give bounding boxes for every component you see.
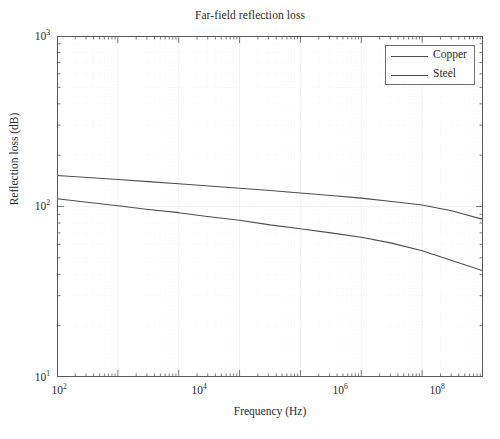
y-tick-label-100: 102 (12, 200, 50, 212)
x-tick-label-1e8: 108 (429, 384, 444, 396)
legend-swatch-copper (391, 56, 428, 57)
legend-entry-steel: Steel (386, 65, 476, 85)
chart-title: Far-field reflection loss (0, 9, 500, 21)
plot-area (57, 36, 483, 377)
x-tick-label-1e2: 102 (51, 384, 66, 396)
x-tick-label-1e4: 104 (191, 384, 206, 396)
y-tick-label-1000: 103 (12, 30, 50, 42)
legend-swatch-steel (391, 75, 428, 76)
legend-label-steel: Steel (433, 67, 456, 79)
legend-label-copper: Copper (433, 48, 467, 60)
chart-figure: Far-field reflection loss Reflection los… (0, 0, 500, 439)
y-axis-label: Reflection loss (dB) (8, 69, 20, 249)
x-tick-label-1e6: 106 (332, 384, 347, 396)
legend: Copper Steel (385, 45, 475, 85)
x-axis-label: Frequency (Hz) (57, 405, 483, 417)
legend-entry-copper: Copper (386, 46, 476, 66)
y-tick-label-10: 101 (12, 371, 50, 383)
plot-svg (57, 36, 483, 377)
